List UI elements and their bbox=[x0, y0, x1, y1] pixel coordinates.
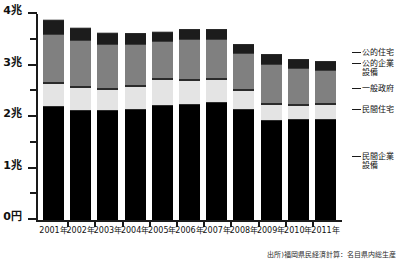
legend-item-ippan-seifu: 一般政府 bbox=[362, 84, 394, 93]
y-tick-label: 0円 bbox=[3, 210, 22, 224]
y-tick-label: 1兆 bbox=[3, 159, 22, 173]
legend-item-koteki-jutaku: 公的住宅 bbox=[362, 48, 394, 57]
legend-leader-minkan-jutaku bbox=[352, 109, 361, 110]
legend-label-minkan-jutaku: 民間住宅 bbox=[362, 105, 394, 114]
bar-segment bbox=[97, 111, 118, 220]
bar-column bbox=[288, 59, 309, 220]
legend-label-ippan-seifu: 一般政府 bbox=[362, 84, 394, 93]
bar-column bbox=[125, 33, 146, 220]
legend-label-koteki-jutaku: 公的住宅 bbox=[362, 48, 394, 57]
bar-column bbox=[97, 32, 118, 220]
chart-figure: 4兆3兆2兆1兆0円 2001年2002年2003年2004年2005年2006… bbox=[0, 0, 402, 269]
bar-segment bbox=[233, 54, 254, 90]
legend-item-minkan-kigyo: 民間企業 設備 bbox=[362, 152, 394, 170]
bar-segment bbox=[152, 33, 173, 42]
bar-segment bbox=[70, 29, 91, 41]
bar-column bbox=[206, 29, 227, 220]
bar-segment bbox=[179, 80, 200, 105]
bar-segment bbox=[233, 90, 254, 110]
legend-item-minkan-jutaku: 民間住宅 bbox=[362, 105, 394, 114]
bar-column bbox=[70, 27, 91, 220]
legend-leader-koteki-kigyo bbox=[352, 63, 361, 64]
bar-segment bbox=[288, 69, 309, 105]
bar-segment bbox=[70, 87, 91, 111]
bar-segment bbox=[179, 105, 200, 220]
bar-column bbox=[233, 44, 254, 220]
legend: 公的住宅 公的企業 設備 一般政府 民間住宅 民間企業 設備 bbox=[352, 0, 402, 269]
bar-column bbox=[152, 31, 173, 220]
bar-segment bbox=[97, 89, 118, 111]
bar-segment bbox=[315, 120, 336, 220]
bar-segment bbox=[315, 62, 336, 71]
bar-segment bbox=[206, 30, 227, 40]
bar-segment bbox=[261, 121, 282, 220]
bar-segment bbox=[206, 79, 227, 103]
bar-segment bbox=[315, 104, 336, 120]
bar-segment bbox=[152, 42, 173, 80]
bar-segment bbox=[261, 55, 282, 65]
bar-segment bbox=[288, 105, 309, 120]
legend-leader-minkan-kigyo bbox=[352, 156, 361, 157]
bar-segment bbox=[288, 120, 309, 220]
bar-column bbox=[179, 29, 200, 220]
x-axis-line bbox=[36, 220, 342, 222]
bar-segment bbox=[233, 45, 254, 54]
x-tick-label: 2011年 bbox=[306, 226, 346, 236]
bar-segment bbox=[43, 83, 64, 107]
bar-segment bbox=[125, 45, 146, 86]
bar-segment bbox=[261, 65, 282, 104]
plot-area: 4兆3兆2兆1兆0円 bbox=[36, 14, 342, 220]
legend-label-minkan-kigyo-line1: 民間企業 bbox=[362, 152, 394, 161]
bar-segment bbox=[206, 103, 227, 220]
legend-leader-koteki-jutaku bbox=[352, 52, 361, 53]
y-tick-label: 2兆 bbox=[3, 107, 22, 121]
bar-segment bbox=[152, 79, 173, 105]
bar-segment bbox=[206, 40, 227, 80]
bar-segment bbox=[125, 110, 146, 220]
bar-segment bbox=[315, 71, 336, 103]
bar-segment bbox=[261, 104, 282, 121]
bar-segment bbox=[70, 41, 91, 87]
bar-segment bbox=[152, 106, 173, 220]
bar-series-group bbox=[36, 14, 342, 220]
bar-segment bbox=[43, 21, 64, 35]
bar-segment bbox=[43, 107, 64, 220]
legend-item-koteki-kigyo: 公的企業 設備 bbox=[362, 59, 394, 77]
bar-segment bbox=[97, 34, 118, 45]
legend-label-koteki-kigyo-line1: 公的企業 bbox=[362, 59, 394, 68]
bar-column bbox=[315, 61, 336, 220]
legend-leader-ippan-seifu bbox=[352, 88, 361, 89]
y-tick-label: 3兆 bbox=[3, 56, 22, 70]
source-note: 出所)福岡県民経済計算：名目県内総生産 bbox=[0, 250, 396, 260]
legend-label-minkan-kigyo-line2: 設備 bbox=[362, 161, 394, 170]
legend-label-koteki-kigyo-line2: 設備 bbox=[362, 68, 394, 77]
bar-segment bbox=[125, 86, 146, 110]
bar-column bbox=[43, 19, 64, 220]
y-tick-label: 4兆 bbox=[3, 4, 22, 18]
bar-segment bbox=[125, 34, 146, 45]
bar-segment bbox=[179, 30, 200, 40]
bar-segment bbox=[288, 60, 309, 69]
bar-segment bbox=[70, 111, 91, 220]
bar-segment bbox=[179, 40, 200, 80]
bar-column bbox=[261, 54, 282, 220]
bar-segment bbox=[233, 110, 254, 220]
bar-segment bbox=[97, 45, 118, 89]
bar-segment bbox=[43, 35, 64, 83]
